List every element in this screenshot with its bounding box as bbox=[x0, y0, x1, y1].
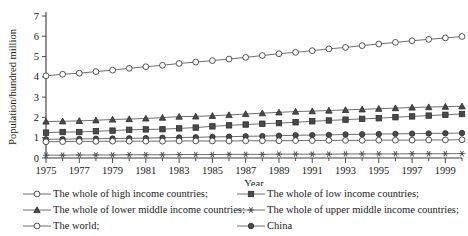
x-tick-label: 1993 bbox=[335, 165, 356, 176]
legend-marker-solid-circle bbox=[236, 220, 266, 232]
marker-solid-circle bbox=[310, 132, 315, 137]
marker-open-circle bbox=[193, 138, 199, 144]
legend-item-label: The whole of low income countries; bbox=[266, 188, 419, 200]
marker-open-circle bbox=[243, 54, 249, 60]
x-tick-label: 1983 bbox=[169, 165, 190, 176]
marker-solid-circle bbox=[409, 131, 414, 136]
marker-open-circle bbox=[426, 137, 432, 143]
legend-item-label: The whole of lower middle income countri… bbox=[52, 204, 245, 216]
marker-open-circle bbox=[76, 70, 82, 76]
legend-row: The whole of lower middle income countri… bbox=[0, 202, 468, 218]
legend-item[interactable]: The world; bbox=[22, 220, 99, 232]
marker-solid-square bbox=[193, 125, 198, 130]
x-axis-title: Year bbox=[244, 178, 264, 186]
marker-open-circle bbox=[409, 38, 415, 44]
marker-open-circle bbox=[76, 138, 82, 144]
marker-open-circle bbox=[409, 137, 415, 143]
marker-open-circle bbox=[34, 223, 40, 229]
marker-open-circle bbox=[126, 65, 132, 71]
legend-item-label: The world; bbox=[52, 220, 99, 232]
marker-solid-circle bbox=[343, 132, 348, 137]
chart-legend: The whole of high income countries;The w… bbox=[0, 186, 468, 236]
x-tick-label: 1975 bbox=[36, 165, 57, 176]
x-tick-label: 1979 bbox=[102, 165, 123, 176]
legend-row: The whole of high income countries;The w… bbox=[0, 186, 468, 202]
marker-open-circle bbox=[93, 138, 99, 144]
marker-solid-square bbox=[260, 121, 265, 126]
marker-open-circle bbox=[126, 138, 132, 144]
marker-open-circle bbox=[393, 137, 399, 143]
marker-open-circle bbox=[376, 41, 382, 47]
marker-open-circle bbox=[276, 138, 282, 144]
legend-item[interactable]: The whole of upper middle income countri… bbox=[236, 204, 459, 216]
marker-solid-square bbox=[443, 112, 448, 117]
legend-item[interactable]: The whole of low income countries; bbox=[236, 188, 419, 200]
series-line-0 bbox=[46, 36, 462, 75]
y-tick-label: 3 bbox=[34, 92, 39, 103]
marker-solid-square bbox=[43, 130, 48, 135]
marker-solid-square bbox=[343, 117, 348, 122]
marker-solid-square bbox=[176, 126, 181, 131]
marker-solid-square bbox=[359, 116, 364, 121]
marker-solid-circle bbox=[293, 133, 298, 138]
legend-item[interactable]: The whole of high income countries; bbox=[22, 188, 208, 200]
marker-open-circle bbox=[376, 137, 382, 143]
legend-marker-open-circle bbox=[22, 220, 52, 232]
marker-solid-square bbox=[426, 113, 431, 118]
legend-item[interactable]: China bbox=[236, 220, 292, 232]
x-tick-label: 1977 bbox=[69, 165, 90, 176]
x-tick-label: 1985 bbox=[202, 165, 223, 176]
legend-item[interactable]: The whole of lower middle income countri… bbox=[22, 204, 245, 216]
x-tick-label: 1991 bbox=[302, 165, 323, 176]
marker-open-circle bbox=[293, 138, 299, 144]
marker-solid-square bbox=[77, 129, 82, 134]
marker-open-circle bbox=[326, 137, 332, 143]
marker-solid-circle bbox=[426, 131, 431, 136]
y-tick-label: 5 bbox=[34, 51, 39, 62]
marker-solid-square bbox=[110, 128, 115, 133]
series-line-3 bbox=[46, 133, 462, 139]
marker-solid-square bbox=[243, 122, 248, 127]
marker-open-circle bbox=[43, 73, 49, 79]
marker-solid-square bbox=[276, 120, 281, 125]
legend-row: The world;China bbox=[0, 218, 468, 234]
marker-open-circle bbox=[259, 138, 265, 144]
marker-open-circle bbox=[34, 191, 40, 197]
marker-solid-circle bbox=[376, 131, 381, 136]
marker-solid-square bbox=[226, 123, 231, 128]
series-line-1 bbox=[46, 106, 462, 121]
marker-solid-square bbox=[93, 129, 98, 134]
legend-item-label: The whole of high income countries; bbox=[52, 188, 208, 200]
chart-plot-area: 0123456719751977197919811983198519871989… bbox=[0, 0, 468, 186]
marker-open-circle bbox=[226, 56, 232, 62]
x-tick-label: 1999 bbox=[435, 165, 456, 176]
x-tick-label: 1987 bbox=[235, 165, 256, 176]
legend-marker-asterisk bbox=[236, 204, 266, 216]
marker-solid-circle bbox=[326, 132, 331, 137]
x-tick-label: 1981 bbox=[135, 165, 156, 176]
legend-marker-solid-triangle bbox=[22, 204, 52, 216]
marker-open-circle bbox=[309, 48, 315, 54]
marker-open-circle bbox=[442, 137, 448, 143]
marker-open-circle bbox=[193, 59, 199, 65]
marker-open-circle bbox=[226, 138, 232, 144]
marker-solid-square bbox=[160, 126, 165, 131]
series-line-5 bbox=[46, 154, 462, 156]
marker-open-circle bbox=[160, 62, 166, 68]
marker-open-circle bbox=[276, 51, 282, 57]
marker-solid-circle bbox=[248, 223, 253, 228]
marker-open-circle bbox=[110, 67, 116, 73]
series-line-4 bbox=[46, 140, 462, 142]
marker-open-circle bbox=[143, 138, 149, 144]
y-tick-label: 4 bbox=[34, 71, 40, 82]
marker-solid-square bbox=[210, 124, 215, 129]
marker-open-circle bbox=[60, 139, 66, 145]
marker-open-circle bbox=[309, 138, 315, 144]
marker-open-circle bbox=[143, 64, 149, 70]
marker-open-circle bbox=[359, 43, 365, 49]
series-line-2 bbox=[46, 114, 462, 133]
x-tick-label: 1995 bbox=[368, 165, 389, 176]
legend-item-label: China bbox=[266, 220, 292, 232]
marker-open-circle bbox=[110, 138, 116, 144]
marker-open-circle bbox=[259, 53, 265, 59]
